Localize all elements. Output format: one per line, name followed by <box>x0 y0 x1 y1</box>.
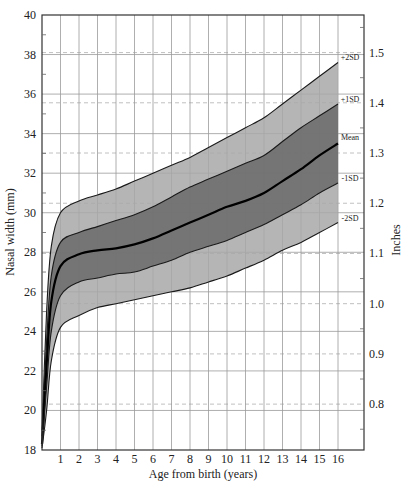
y-right-tick-label: 0.8 <box>369 397 384 411</box>
y-axis-left: 182022242628303234363840 <box>24 8 46 457</box>
y-tick-label: 18 <box>24 443 36 457</box>
y-tick-label: 40 <box>24 8 36 22</box>
x-axis: 12345678910111213141516 <box>58 452 345 466</box>
x-tick-label: 13 <box>277 452 289 466</box>
x-axis-label: Age from birth (years) <box>149 467 257 481</box>
y-tick-label: 32 <box>24 166 36 180</box>
x-tick-label: 11 <box>240 452 252 466</box>
series-labels: +2SD+1SDMean-1SD-2SD <box>341 53 360 222</box>
y-tick-label: 22 <box>24 364 36 378</box>
y-tick-label: 38 <box>24 48 36 62</box>
x-tick-label: 14 <box>295 452 307 466</box>
y-tick-label: 26 <box>24 285 36 299</box>
y-axis-label: Nasal width (mm) <box>3 188 17 275</box>
x-tick-label: 4 <box>113 452 119 466</box>
y-tick-label: 34 <box>24 127 36 141</box>
x-tick-label: 8 <box>187 452 193 466</box>
x-tick-label: 6 <box>150 452 156 466</box>
series-label: +2SD <box>341 53 360 62</box>
series-label: Mean <box>341 133 359 142</box>
x-tick-label: 7 <box>169 452 175 466</box>
series-label: +1SD <box>341 95 360 104</box>
y-tick-label: 24 <box>24 324 36 338</box>
y-tick-label: 20 <box>24 403 36 417</box>
y-tick-label: 30 <box>24 206 36 220</box>
x-tick-label: 2 <box>76 452 82 466</box>
x-tick-label: 16 <box>332 452 344 466</box>
y-right-tick-label: 0.9 <box>369 347 384 361</box>
x-tick-label: 5 <box>132 452 138 466</box>
series-label: -2SD <box>342 214 359 223</box>
x-tick-label: 12 <box>258 452 270 466</box>
y-right-tick-label: 1.1 <box>369 246 384 260</box>
y-right-tick-label: 1.0 <box>369 297 384 311</box>
series-label: -1SD <box>342 174 359 183</box>
x-tick-label: 15 <box>314 452 326 466</box>
x-tick-label: 9 <box>206 452 212 466</box>
y-right-tick-label: 1.2 <box>369 196 384 210</box>
y-tick-label: 36 <box>24 87 36 101</box>
growth-chart: 182022242628303234363840 0.80.91.01.11.2… <box>0 0 408 490</box>
x-tick-label: 10 <box>221 452 233 466</box>
y-axis-right-label: Inches <box>389 224 403 256</box>
y-right-tick-label: 1.5 <box>369 46 384 60</box>
y-tick-label: 28 <box>24 245 36 259</box>
x-tick-label: 1 <box>58 452 64 466</box>
x-tick-label: 3 <box>95 452 101 466</box>
y-right-tick-label: 1.3 <box>369 146 384 160</box>
y-right-tick-label: 1.4 <box>369 96 384 110</box>
